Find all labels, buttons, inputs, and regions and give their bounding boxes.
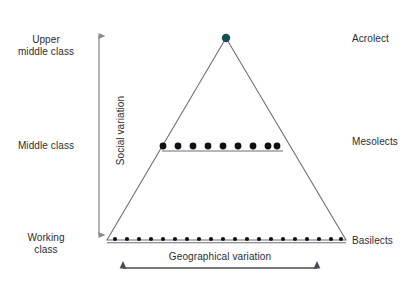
speaker-dot — [175, 143, 182, 150]
y-axis-title: Social variation — [115, 71, 126, 191]
speaker-dot — [137, 237, 141, 241]
speaker-dot — [209, 237, 213, 241]
lect-level-acrolect — [222, 34, 230, 42]
speaker-dot — [113, 237, 117, 241]
triangle-shape — [107, 38, 346, 240]
speaker-dot — [149, 237, 153, 241]
social-class-label-middle-class: Middle class — [4, 140, 88, 152]
speaker-dot — [185, 237, 189, 241]
speaker-dot — [250, 143, 257, 150]
speaker-dot — [274, 143, 281, 150]
speaker-dot — [317, 237, 321, 241]
speaker-dot — [235, 143, 242, 150]
speaker-dot — [161, 237, 165, 241]
speaker-dot — [190, 143, 197, 150]
speaker-dot — [173, 237, 177, 241]
lect-level-mesolects — [160, 143, 283, 151]
speaker-dot — [233, 237, 237, 241]
speaker-dot — [125, 237, 129, 241]
lect-levels-layer — [107, 34, 346, 243]
speaker-dot — [257, 237, 261, 241]
speaker-dot — [329, 237, 333, 241]
lect-label-basilects: Basilects — [352, 235, 393, 247]
speaker-dot — [221, 237, 225, 241]
lect-label-acrolect: Acrolect — [352, 33, 389, 45]
triangle-outline — [107, 38, 346, 240]
figure-container: Upper middle class Middle class Working … — [0, 0, 416, 287]
lect-label-mesolects: Mesolects — [352, 136, 398, 148]
speaker-dot — [197, 237, 201, 241]
social-class-label-upper-middle-class: Upper middle class — [4, 34, 88, 58]
x-axis-title: Geographical variation — [117, 251, 323, 262]
speaker-dot — [305, 237, 309, 241]
speaker-dot — [339, 237, 343, 241]
speaker-dot — [222, 34, 230, 42]
speaker-dot — [205, 143, 212, 150]
social-class-label-working-class: Working class — [4, 232, 88, 256]
speaker-dot — [220, 143, 227, 150]
speaker-dot — [281, 237, 285, 241]
speaker-dot — [160, 143, 167, 150]
speaker-dot — [293, 237, 297, 241]
speaker-dot — [245, 237, 249, 241]
speaker-dot — [265, 143, 272, 150]
speaker-dot — [269, 237, 273, 241]
